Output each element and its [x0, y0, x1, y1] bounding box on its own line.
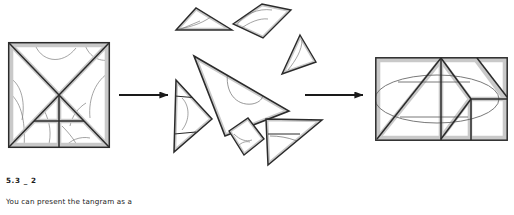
piece-medium-triangle-bottom-right — [266, 119, 322, 165]
tangram-figure: 5.3 _ 2 You can present the tangram as a… — [0, 0, 514, 215]
panel-scattered-pieces — [174, 4, 322, 165]
piece-medium-triangle-right — [282, 35, 316, 74]
figure-number: 5.3 _ 2 — [6, 176, 186, 186]
panel-rearranged-rectangle — [375, 57, 508, 141]
figure-caption: 5.3 _ 2 You can present the tangram as a… — [6, 176, 186, 215]
piece-large-triangle-left — [174, 80, 212, 152]
panel-assembled-square — [8, 42, 110, 148]
piece-small-triangle-top-left — [176, 8, 232, 30]
caption-line-1: You can present the tangram as a — [6, 197, 186, 207]
piece-parallelogram-top — [233, 4, 291, 38]
figure-caption-text: You can present the tangram as a square,… — [6, 187, 186, 215]
